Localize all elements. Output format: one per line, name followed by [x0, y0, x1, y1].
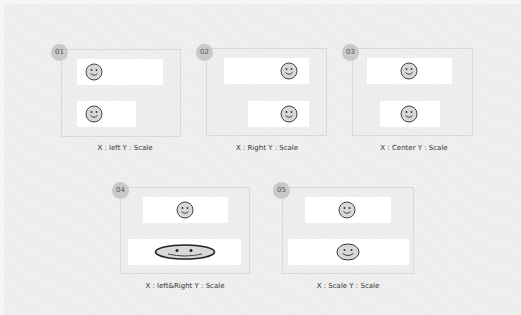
smiley-face-icon [400, 105, 418, 123]
scaled-smiley-face-icon [336, 243, 360, 261]
smiley-face-icon [85, 105, 103, 123]
smiley-face-icon [280, 62, 298, 80]
panel-01-badge: 01 [51, 44, 68, 61]
panel-02-badge: 02 [196, 44, 213, 61]
panel-05-badge: 05 [273, 182, 290, 199]
smiley-face-icon [338, 201, 356, 219]
smiley-face-icon [400, 62, 418, 80]
panel-03-badge: 03 [342, 44, 359, 61]
left-edge [0, 0, 4, 315]
smiley-face-icon [280, 105, 298, 123]
panel-04-badge: 04 [112, 182, 129, 199]
panel-04-caption: X : left&Right Y : Scale [146, 282, 225, 290]
panel-05-caption: X : Scale Y : Scale [317, 282, 380, 290]
smiley-face-icon [176, 201, 194, 219]
smiley-face-icon [85, 63, 103, 81]
stretched-smiley-face-icon [154, 244, 216, 260]
panel-01-caption: X : left Y : Scale [97, 144, 152, 152]
panel-03-caption: X : Center Y : Scale [380, 144, 447, 152]
top-edge [0, 0, 521, 4]
panel-02-caption: X : Right Y : Scale [236, 144, 298, 152]
panel-02-bottom-bar [248, 101, 309, 127]
